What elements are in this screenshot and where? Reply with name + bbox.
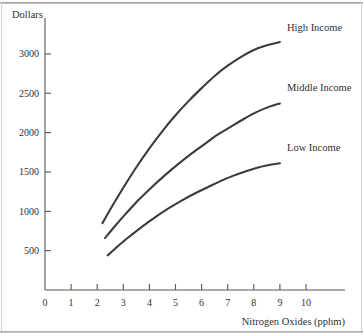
- series-curve: [108, 163, 280, 255]
- x-tick-label: 0: [43, 297, 48, 308]
- x-tick-label: 4: [147, 297, 152, 308]
- series-curves: [102, 42, 279, 255]
- x-tick-label: 7: [225, 297, 230, 308]
- series-label: Low Income: [287, 142, 341, 153]
- y-tick-label: 3000: [19, 48, 39, 59]
- y-axis-ticks: 50010001500200025003000: [19, 48, 51, 256]
- x-axis-title: Nitrogen Oxides (pphm): [242, 316, 346, 328]
- x-tick-label: 10: [301, 297, 311, 308]
- x-tick-label: 2: [95, 297, 100, 308]
- x-tick-label: 5: [173, 297, 178, 308]
- series-labels: High IncomeMiddle IncomeLow Income: [287, 22, 352, 153]
- y-tick-label: 2500: [19, 88, 39, 99]
- series-curve: [105, 103, 280, 238]
- y-axis-title: Dollars: [12, 9, 43, 20]
- x-tick-label: 6: [199, 297, 204, 308]
- x-axis-ticks: 012345678910: [43, 284, 312, 308]
- series-label: High Income: [287, 22, 342, 33]
- x-tick-label: 8: [251, 297, 256, 308]
- line-chart-plot: 50010001500200025003000 012345678910 Hig…: [0, 0, 363, 336]
- y-tick-label: 1000: [19, 206, 39, 217]
- x-tick-label: 9: [277, 297, 282, 308]
- y-tick-label: 2000: [19, 127, 39, 138]
- x-tick-label: 3: [121, 297, 126, 308]
- y-tick-label: 1500: [19, 166, 39, 177]
- chart-figure: 50010001500200025003000 012345678910 Hig…: [0, 0, 363, 336]
- y-tick-label: 500: [24, 245, 39, 256]
- series-label: Middle Income: [287, 82, 352, 93]
- x-tick-label: 1: [69, 297, 74, 308]
